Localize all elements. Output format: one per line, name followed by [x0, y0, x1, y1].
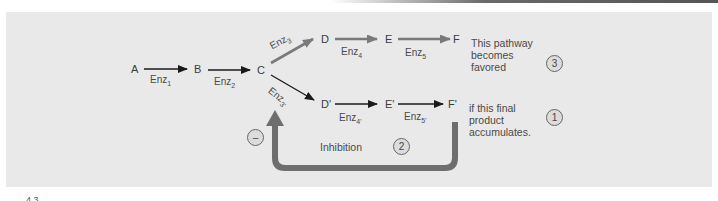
inhibition-label: Inhibition	[320, 141, 362, 153]
feedback-inhibition-arrow	[275, 122, 455, 168]
step-2-badge: 2	[393, 138, 410, 155]
enzyme-1-label: Enz1	[150, 74, 171, 87]
node-e: E	[385, 33, 392, 45]
lower-branch-note: if this final product accumulates.	[469, 102, 531, 138]
node-d-prime: D'	[321, 98, 331, 110]
step-3-badge: 3	[546, 55, 563, 72]
node-e-prime: E'	[385, 98, 394, 110]
enzyme-4-label: Enz4	[341, 46, 362, 59]
node-c: C	[257, 64, 265, 76]
node-d: D	[321, 33, 329, 45]
enzyme-4-prime-label: Enz4'	[339, 112, 361, 125]
step-1-badge: 1	[546, 109, 563, 126]
node-f-prime: F'	[448, 98, 457, 110]
upper-branch-note: This pathway becomes favored	[471, 37, 533, 73]
enzyme-2-label: Enz2	[214, 76, 235, 89]
node-a: A	[131, 63, 138, 75]
pathway-arrows	[0, 0, 718, 201]
figure-caption-fragment: 4.3	[26, 196, 39, 201]
feedback-arrowhead-icon	[266, 110, 284, 126]
enzyme-5-label: Enz5	[405, 47, 426, 60]
enzyme-5-prime-label: Enz5'	[404, 111, 426, 124]
node-b: B	[194, 63, 201, 75]
inhibition-minus-icon: –	[247, 129, 264, 146]
node-f: F	[453, 33, 460, 45]
